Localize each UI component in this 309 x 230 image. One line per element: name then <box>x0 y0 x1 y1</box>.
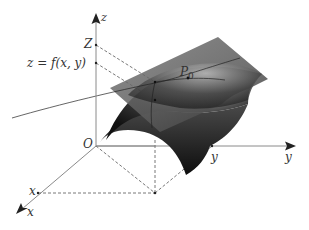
x-tick <box>37 192 39 194</box>
z-tick-f <box>95 62 97 64</box>
point-p0-label: P0 <box>180 66 194 81</box>
y-tick <box>211 145 213 147</box>
z-axis <box>92 13 101 146</box>
x-axis <box>16 146 96 214</box>
x-tick-label: x <box>29 185 36 197</box>
z-axis-label: z <box>101 12 107 23</box>
tangent-plane-diagram <box>0 0 309 230</box>
z-tick-Z <box>95 44 97 46</box>
x-axis-label: x <box>27 206 34 218</box>
origin-label: O <box>83 138 93 150</box>
Z-tick-label: Z <box>84 38 92 50</box>
f-tick-label: z = f(x, y) <box>27 57 86 69</box>
y-tick-label: y <box>211 151 218 163</box>
y-axis-label: y <box>285 151 292 163</box>
floor-point <box>154 192 157 195</box>
